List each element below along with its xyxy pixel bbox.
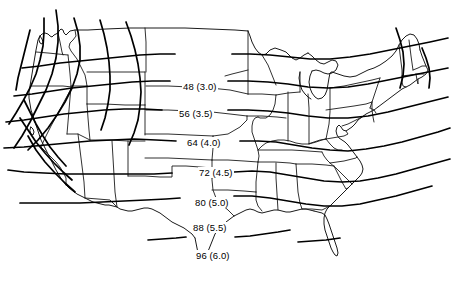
contour-label-96: 96 (6.0) xyxy=(195,250,231,261)
border-de-md xyxy=(372,102,374,122)
contour-label-72: 72 (4.5) xyxy=(198,167,234,178)
map-canvas xyxy=(0,0,451,285)
border-wy-co xyxy=(87,104,145,105)
border-or-id xyxy=(68,55,71,86)
border-mo-ar xyxy=(212,160,258,162)
border-sd-ia xyxy=(212,112,247,116)
michigan-mitten xyxy=(309,71,332,99)
border-tn-ky xyxy=(258,150,322,152)
border-id-mt xyxy=(69,30,87,86)
contour-line-64-east xyxy=(228,97,448,118)
border-mo-il xyxy=(252,117,259,162)
border-oh-wv xyxy=(309,139,326,144)
great-lakes-superior xyxy=(308,53,338,74)
gulf-coast xyxy=(234,209,314,216)
contour-line-48 xyxy=(22,54,175,68)
contour-arc-central-2 xyxy=(126,22,141,145)
border-ar-ms xyxy=(256,162,258,192)
state-borders-group xyxy=(31,28,426,216)
border-ct-ri xyxy=(416,74,418,84)
texas-mexico-border xyxy=(117,207,195,238)
border-me-nh xyxy=(413,66,426,70)
border-in-oh xyxy=(308,94,309,144)
contour-line-56-east xyxy=(228,68,448,88)
border-ut-co xyxy=(87,104,90,140)
border-tn-nc xyxy=(322,152,330,163)
border-la-ms xyxy=(256,192,262,211)
border-ia-il xyxy=(258,95,276,118)
border-or-ca xyxy=(31,86,72,87)
border-mo-tn-ky xyxy=(258,162,296,164)
contour-line-48-east xyxy=(232,38,448,59)
border-mn-wi xyxy=(262,55,276,85)
border-oh-pa xyxy=(326,88,330,139)
border-mt-nd xyxy=(145,28,146,72)
border-mn-sd xyxy=(225,70,248,76)
contour-arc-central-1 xyxy=(100,20,110,130)
contour-arc-west-2 xyxy=(9,18,44,124)
contour-line-72-east xyxy=(240,128,450,151)
border-ne-ks xyxy=(145,134,213,136)
contour-arc-west-3 xyxy=(28,18,80,150)
border-mn-ia xyxy=(248,94,276,95)
contour-line-96 xyxy=(148,237,186,240)
lake-erie-ontario xyxy=(332,34,420,77)
border-ar-la xyxy=(212,190,256,192)
contour-label-48: 48 (3.0) xyxy=(182,81,218,92)
contour-arc-west-1 xyxy=(14,10,58,148)
contour-line-96-east xyxy=(235,230,290,237)
border-ks-ok xyxy=(145,158,212,160)
northern-border xyxy=(58,28,248,35)
border-tn-ga-al xyxy=(296,164,334,166)
contour-arc-east-2 xyxy=(422,48,430,88)
us-outline-group xyxy=(29,28,428,259)
border-wv-va-south xyxy=(326,139,342,150)
border-ne-ia-mo xyxy=(213,116,247,136)
us-contour-map-figure: 48 (3.0) 56 (3.5) 64 (4.0) 72 (4.5) 80 (… xyxy=(0,0,451,285)
border-va-nc xyxy=(330,157,357,163)
border-az-nm xyxy=(78,134,85,198)
contour-label-56: 56 (3.5) xyxy=(178,108,214,119)
border-pa-md xyxy=(326,102,372,110)
contour-arc-west-4 xyxy=(16,30,30,90)
contour-line-96-florida xyxy=(298,238,340,242)
contour-label-64: 64 (4.0) xyxy=(186,137,222,148)
contour-label-88: 88 (5.5) xyxy=(192,222,228,233)
border-ms-al xyxy=(276,163,278,210)
contour-label-80: 80 (5.0) xyxy=(194,197,230,208)
border-vt-nh xyxy=(409,40,413,70)
contour-line-80 xyxy=(8,170,172,174)
florida-peninsula xyxy=(314,206,338,256)
contour-line-56 xyxy=(14,81,170,96)
